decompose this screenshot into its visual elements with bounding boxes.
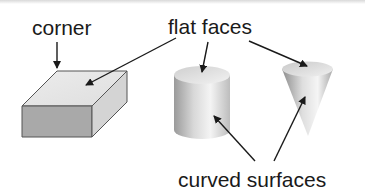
diagram-canvas: corner flat faces curved surfaces (0, 0, 365, 192)
arrow-curved-cylinder (214, 116, 255, 161)
label-corner: corner (32, 16, 92, 39)
arrow-flat-box (86, 38, 176, 85)
cone-shape (282, 62, 333, 137)
diagram-svg: corner flat faces curved surfaces (0, 0, 365, 192)
label-curved-surfaces: curved surfaces (178, 168, 326, 191)
box-shape (22, 71, 127, 137)
arrow-flat-cone (249, 41, 307, 66)
label-flat-faces: flat faces (168, 15, 252, 38)
arrow-curved-cone (274, 97, 305, 161)
cylinder-shape (174, 66, 230, 139)
